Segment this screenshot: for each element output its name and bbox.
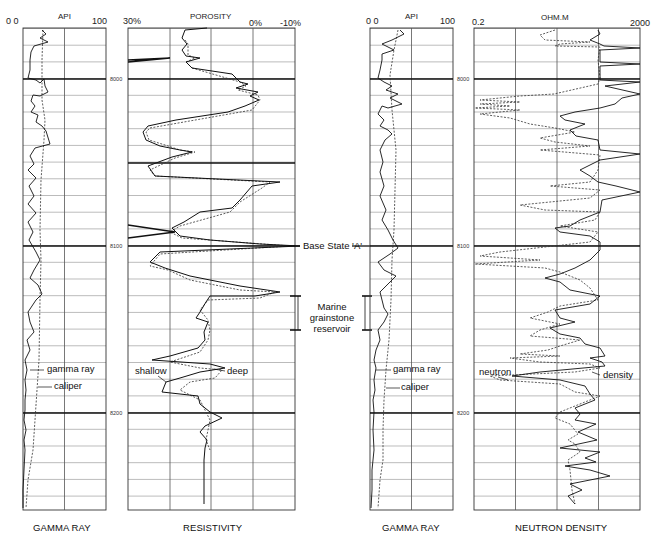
footer-resistivity: RESISTIVITY	[183, 522, 242, 533]
track-gamma-ray-2	[370, 28, 453, 510]
deep-label: deep	[227, 365, 248, 376]
neutron-label: neutron	[479, 366, 511, 377]
density-label: density	[603, 369, 633, 380]
footer-gamma-ray-2: GAMMA RAY	[382, 522, 440, 533]
reservoir-label-line1: Marine	[302, 301, 362, 312]
gamma-ray-label-2: gamma ray	[393, 363, 441, 374]
reservoir-label-line2: grainstone	[302, 312, 362, 323]
caliper-label-2: caliper	[401, 381, 429, 392]
well-log-plot	[0, 0, 663, 544]
caliper-label-1: caliper	[54, 380, 82, 391]
reservoir-label-line3: reservoir	[302, 323, 362, 334]
gamma-ray-label-1: gamma ray	[47, 363, 95, 374]
track-resistivity	[128, 28, 300, 510]
base-state-label: Base State 'A'	[303, 240, 362, 251]
track-neutron-density	[474, 28, 640, 510]
footer-neutron-density: NEUTRON DENSITY	[515, 522, 607, 533]
track-gamma-ray-1	[23, 28, 106, 510]
reservoir-label: Marine grainstone reservoir	[302, 301, 362, 334]
footer-gamma-ray-1: GAMMA RAY	[33, 522, 91, 533]
shallow-label: shallow	[135, 365, 167, 376]
